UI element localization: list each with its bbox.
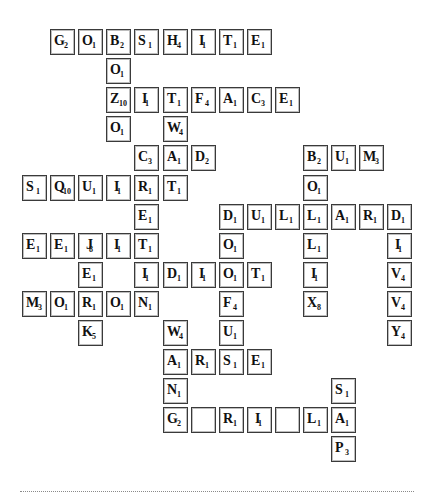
letter-tile[interactable]: Y4 — [387, 320, 412, 346]
letter-tile[interactable]: I1 — [106, 233, 131, 259]
tile-score: 3 — [345, 448, 349, 458]
tile-score: 1 — [177, 157, 181, 167]
letter-tile[interactable]: R1 — [219, 407, 244, 433]
letter-tile[interactable]: I1 — [134, 262, 159, 288]
tile-score: 1 — [345, 390, 349, 400]
letter-tile[interactable]: C3 — [134, 145, 159, 171]
letter-tile[interactable]: Z10 — [106, 87, 131, 113]
letter-tile[interactable]: I1 — [303, 262, 328, 288]
letter-tile[interactable]: U1 — [78, 175, 103, 201]
letter-tile[interactable]: O1 — [78, 29, 103, 55]
letter-tile[interactable]: M3 — [22, 291, 47, 317]
letter-tile[interactable]: F4 — [191, 87, 216, 113]
letter-tile[interactable]: Q10 — [50, 175, 75, 201]
letter-tile[interactable]: A1 — [163, 349, 188, 375]
letter-tile[interactable]: O1 — [303, 175, 328, 201]
letter-tile[interactable]: I1 — [106, 175, 131, 201]
letter-tile[interactable]: I1 — [191, 262, 216, 288]
letter-tile[interactable]: O1 — [50, 291, 75, 317]
letter-tile[interactable]: D1 — [387, 204, 412, 230]
letter-tile[interactable]: A1 — [331, 407, 356, 433]
letter-tile[interactable]: W4 — [163, 116, 188, 142]
letter-tile[interactable]: S1 — [134, 29, 159, 55]
letter-tile[interactable]: O1 — [219, 233, 244, 259]
letter-tile[interactable]: G2 — [163, 407, 188, 433]
letter-tile[interactable]: E1 — [78, 262, 103, 288]
tile-letter: E — [26, 237, 35, 253]
letter-tile[interactable]: T1 — [163, 87, 188, 113]
tile-score: 3 — [38, 303, 42, 313]
letter-tile[interactable]: I1 — [134, 87, 159, 113]
blank-tile[interactable] — [191, 407, 216, 433]
letter-tile[interactable]: D1 — [163, 262, 188, 288]
letter-tile[interactable]: A1 — [163, 145, 188, 171]
letter-tile[interactable]: L1 — [303, 204, 328, 230]
letter-tile[interactable]: G2 — [50, 29, 75, 55]
tile-score: 4 — [401, 332, 405, 342]
letter-tile[interactable]: L1 — [303, 233, 328, 259]
letter-tile[interactable]: X8 — [303, 291, 328, 317]
letter-tile[interactable]: O1 — [219, 262, 244, 288]
letter-tile[interactable]: V4 — [387, 291, 412, 317]
letter-tile[interactable]: E1 — [247, 349, 272, 375]
tile-letter: L — [307, 411, 316, 427]
letter-tile[interactable]: R1 — [134, 175, 159, 201]
tile-score: 1 — [177, 187, 181, 197]
letter-tile[interactable]: E1 — [50, 233, 75, 259]
letter-tile[interactable]: I1 — [387, 233, 412, 259]
letter-tile[interactable]: T1 — [219, 29, 244, 55]
letter-tile[interactable]: O1 — [106, 58, 131, 84]
letter-tile[interactable]: O1 — [106, 291, 131, 317]
letter-tile[interactable]: N1 — [163, 378, 188, 404]
letter-tile[interactable]: E1 — [275, 87, 300, 113]
letter-tile[interactable]: U1 — [219, 320, 244, 346]
letter-tile[interactable]: I1 — [247, 407, 272, 433]
letter-tile[interactable]: U1 — [331, 145, 356, 171]
letter-tile[interactable]: R1 — [359, 204, 384, 230]
letter-tile[interactable]: L1 — [303, 407, 328, 433]
tile-score: 1 — [317, 245, 321, 255]
letter-tile[interactable]: M3 — [359, 145, 384, 171]
letter-tile[interactable]: E1 — [247, 29, 272, 55]
letter-tile[interactable]: F4 — [219, 291, 244, 317]
letter-tile[interactable]: H4 — [163, 29, 188, 55]
letter-tile[interactable]: J8 — [78, 233, 103, 259]
letter-tile[interactable]: T1 — [134, 233, 159, 259]
letter-tile[interactable]: S1 — [219, 349, 244, 375]
letter-tile[interactable]: E1 — [134, 204, 159, 230]
tile-score: 2 — [177, 419, 181, 429]
letter-tile[interactable]: T1 — [247, 262, 272, 288]
letter-tile[interactable]: S1 — [22, 175, 47, 201]
letter-tile[interactable]: A1 — [219, 87, 244, 113]
letter-tile[interactable]: K5 — [78, 320, 103, 346]
letter-tile[interactable]: D1 — [219, 204, 244, 230]
letter-tile[interactable]: P3 — [331, 436, 356, 462]
letter-tile[interactable]: L1 — [275, 204, 300, 230]
blank-tile[interactable] — [275, 407, 300, 433]
letter-tile[interactable]: V4 — [387, 262, 412, 288]
letter-tile[interactable]: W4 — [163, 320, 188, 346]
tile-letter: T — [251, 266, 260, 282]
tile-score: 1 — [233, 332, 237, 342]
letter-tile[interactable]: U1 — [247, 204, 272, 230]
letter-tile[interactable]: S1 — [331, 378, 356, 404]
tile-letter: T — [167, 179, 176, 195]
tile-score: 1 — [289, 216, 293, 226]
letter-tile[interactable]: T1 — [163, 175, 188, 201]
letter-tile[interactable]: O1 — [106, 116, 131, 142]
letter-tile[interactable]: D2 — [191, 145, 216, 171]
letter-tile[interactable]: N1 — [134, 291, 159, 317]
tile-score: 8 — [317, 303, 321, 313]
letter-tile[interactable]: R1 — [191, 349, 216, 375]
tile-letter: A — [167, 353, 177, 369]
letter-tile[interactable]: B2 — [303, 145, 328, 171]
letter-tile[interactable]: E1 — [22, 233, 47, 259]
letter-tile[interactable]: I1 — [191, 29, 216, 55]
letter-tile[interactable]: B2 — [106, 29, 131, 55]
tile-score: 1 — [261, 361, 265, 371]
letter-tile[interactable]: A1 — [331, 204, 356, 230]
letter-tile[interactable]: R1 — [78, 291, 103, 317]
tile-score: 1 — [177, 274, 181, 284]
letter-tile[interactable]: C3 — [247, 87, 272, 113]
tile-score: 1 — [120, 70, 124, 80]
